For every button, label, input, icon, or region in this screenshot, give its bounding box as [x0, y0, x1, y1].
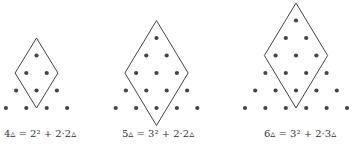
- dot: [24, 106, 28, 110]
- dot: [165, 53, 169, 57]
- dot: [34, 53, 38, 57]
- dot: [134, 106, 138, 110]
- label-figure-5: 5▵ = 3² + 2·2▵: [122, 128, 194, 139]
- dot: [175, 106, 179, 110]
- dot: [304, 106, 308, 110]
- dot: [294, 53, 298, 57]
- dot: [124, 88, 128, 92]
- dot: [154, 36, 158, 40]
- dot: [325, 106, 329, 110]
- label-figure-6: 6▵ = 3² + 2·3▵: [264, 128, 336, 139]
- dot: [154, 106, 158, 110]
- dot: [45, 106, 49, 110]
- dot: [154, 71, 158, 75]
- figure-6: [243, 3, 349, 110]
- dot: [304, 71, 308, 75]
- dot: [144, 88, 148, 92]
- dot: [165, 88, 169, 92]
- dot: [263, 106, 267, 110]
- dot: [304, 36, 308, 40]
- dot: [274, 53, 278, 57]
- dot: [294, 18, 298, 22]
- dot: [253, 88, 257, 92]
- figure-5: [114, 21, 200, 126]
- dot: [195, 106, 199, 110]
- dot: [175, 71, 179, 75]
- dot: [14, 88, 18, 92]
- dot: [185, 88, 189, 92]
- dot: [34, 88, 38, 92]
- dot: [134, 71, 138, 75]
- triangular-number-diagram: [0, 0, 357, 149]
- dot: [284, 71, 288, 75]
- dot: [284, 106, 288, 110]
- figure-4: [4, 38, 69, 110]
- dot: [55, 88, 59, 92]
- dot: [335, 88, 339, 92]
- dot: [45, 71, 49, 75]
- dot: [314, 88, 318, 92]
- dot: [243, 106, 247, 110]
- dot: [345, 106, 349, 110]
- diamond-outline: [15, 38, 58, 108]
- dot: [114, 106, 118, 110]
- dot: [284, 36, 288, 40]
- dot: [144, 53, 148, 57]
- label-figure-4: 4▵ = 2² + 2·2▵: [4, 128, 76, 139]
- dot: [24, 71, 28, 75]
- dot: [65, 106, 69, 110]
- dot: [263, 71, 267, 75]
- dot: [325, 71, 329, 75]
- dot: [4, 106, 8, 110]
- dot: [314, 53, 318, 57]
- dot: [294, 88, 298, 92]
- dot: [274, 88, 278, 92]
